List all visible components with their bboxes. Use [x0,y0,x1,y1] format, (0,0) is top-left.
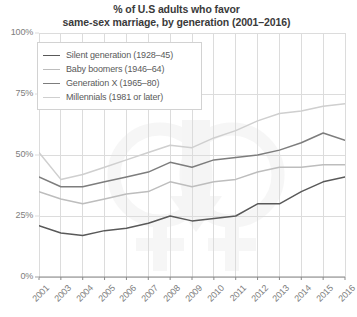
legend-swatch-silent-generation [43,55,60,56]
legend-swatch-generation-x [43,83,60,84]
y-axis-tick-label: 75% [0,88,33,98]
legend-swatch-millennials [43,97,60,98]
legend-swatch-baby-boomers [43,69,60,70]
legend-label-millennials: Millennials (1981 or later) [66,92,163,102]
legend-label-baby-boomers: Baby boomers (1946–64) [66,64,164,74]
y-axis-tick-label: 100% [0,27,33,37]
legend-label-silent-generation: Silent generation (1928–45) [66,50,173,60]
watermark-gender-symbols [114,120,278,271]
legend-item-silent-generation: Silent generation (1928–45) [43,48,195,62]
legend-item-millennials: Millennials (1981 or later) [43,90,195,104]
y-axis-tick-label: 50% [0,149,33,159]
legend-item-generation-x: Generation X (1965–80) [43,76,195,90]
y-axis-tick-label: 0% [0,271,33,281]
y-axis-tick-label: 25% [0,210,33,220]
legend-item-baby-boomers: Baby boomers (1946–64) [43,62,195,76]
legend-label-generation-x: Generation X (1965–80) [66,78,159,88]
chart-legend: Silent generation (1928–45) Baby boomers… [37,42,202,110]
